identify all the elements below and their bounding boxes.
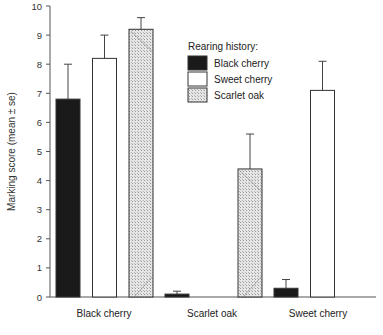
y-tick-label: 2	[37, 233, 42, 244]
y-tick-label: 1	[37, 262, 42, 273]
y-tick-label: 7	[37, 88, 42, 99]
bar-sweet-cherry	[311, 90, 335, 297]
y-tick-label: 3	[37, 204, 42, 215]
x-category-label: Black cherry	[76, 308, 131, 319]
y-tick-label: 6	[37, 117, 42, 128]
y-tick-label: 9	[37, 30, 42, 41]
bar-black-cherry	[274, 288, 298, 297]
x-category-label: Sweet cherry	[289, 308, 347, 319]
legend-label: Sweet cherry	[214, 74, 272, 85]
legend-label: Black cherry	[214, 58, 269, 69]
legend-swatch	[188, 72, 207, 86]
legend-swatch	[188, 88, 207, 102]
bar-black-cherry	[56, 99, 80, 297]
bar-black-cherry	[165, 294, 189, 297]
legend-swatch	[188, 56, 207, 70]
y-tick-label: 8	[37, 59, 42, 70]
bar-scarlet-oak	[129, 29, 153, 297]
bar-sweet-cherry	[93, 58, 117, 297]
y-tick-label: 5	[37, 146, 42, 157]
y-tick-label: 4	[37, 175, 42, 186]
legend: Rearing history:Black cherrySweet cherry…	[188, 41, 272, 102]
y-tick-label: 0	[37, 292, 42, 303]
legend-label: Scarlet oak	[214, 90, 265, 101]
y-tick-label: 10	[31, 1, 42, 12]
bar-chart: 012345678910Marking score (mean ± se)Bla…	[0, 0, 383, 335]
y-axis-title: Marking score (mean ± se)	[6, 92, 17, 211]
x-category-label: Scarlet oak	[187, 308, 238, 319]
legend-title: Rearing history:	[188, 41, 258, 52]
